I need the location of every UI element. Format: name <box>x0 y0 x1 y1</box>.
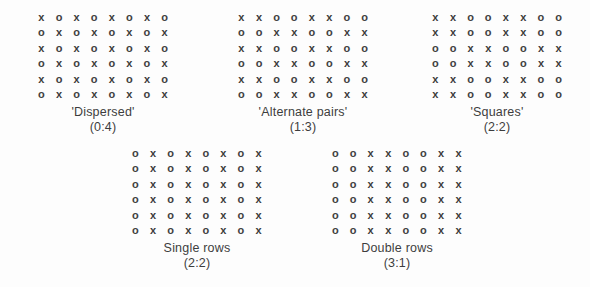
grid-cell-o: o <box>232 208 250 223</box>
grid-row: oxoxoxox <box>127 177 268 192</box>
grid-cell-x: x <box>215 146 233 161</box>
grid-row: oxoxoxox <box>127 192 268 207</box>
grid-cell-o: o <box>138 25 156 40</box>
grid-cell-o: o <box>415 161 433 176</box>
grid-cell-o: o <box>356 10 374 25</box>
grid-cell-o: o <box>232 192 250 207</box>
grid-cell-x: x <box>233 10 251 25</box>
grid-cell-o: o <box>532 25 550 40</box>
grid-cell-x: x <box>427 25 445 40</box>
grid-row: xoxoxoxo <box>33 72 174 87</box>
grid-cell-x: x <box>250 161 268 176</box>
grid-cell-o: o <box>68 87 86 102</box>
grid-cell-o: o <box>415 208 433 223</box>
grid-cell-x: x <box>479 56 497 71</box>
grid-cell-o: o <box>532 87 550 102</box>
grid-cell-x: x <box>121 25 139 40</box>
grid-cell-o: o <box>233 87 251 102</box>
grid-row: xxooxxoo <box>233 72 374 87</box>
grid-cell-x: x <box>432 177 450 192</box>
grid-cell-o: o <box>444 56 462 71</box>
grid-row: oxoxoxox <box>127 208 268 223</box>
pattern-ratio: (2:2) <box>112 256 282 271</box>
grid-cell-o: o <box>250 25 268 40</box>
grid-cell-o: o <box>33 25 51 40</box>
grid-cell-x: x <box>138 72 156 87</box>
grid-cell-x: x <box>68 72 86 87</box>
grid-cell-o: o <box>156 72 174 87</box>
grid-cell-x: x <box>515 72 533 87</box>
grid-cell-o: o <box>327 223 345 238</box>
grid-cell-x: x <box>215 208 233 223</box>
grid-cell-x: x <box>179 192 197 207</box>
pattern-name: Single rows <box>112 241 282 256</box>
grid-row: ooxxooxx <box>233 25 374 40</box>
grid-cell-o: o <box>338 72 356 87</box>
grid-cell-o: o <box>462 72 480 87</box>
grid-cell-x: x <box>144 146 162 161</box>
grid-cell-o: o <box>479 72 497 87</box>
grid-cell-x: x <box>179 146 197 161</box>
grid-cell-o: o <box>127 192 145 207</box>
grid-row: xxooxxoo <box>427 25 568 40</box>
grid-row: xxooxxoo <box>427 10 568 25</box>
pattern-ratio: (3:1) <box>312 256 482 271</box>
grid-cell-o: o <box>397 177 415 192</box>
grid-cell-x: x <box>432 161 450 176</box>
grid-cell-x: x <box>515 25 533 40</box>
grid-row: ooxxooxx <box>327 223 468 238</box>
grid-cell-o: o <box>462 87 480 102</box>
grid-cell-x: x <box>444 10 462 25</box>
grid-row: ooxxooxx <box>327 177 468 192</box>
symbol-grid: xxooxxooooxxooxxxxooxxooooxxooxxxxooxxoo… <box>233 10 374 102</box>
pattern-caption: 'Dispersed' (0:4) <box>18 105 188 135</box>
grid-cell-o: o <box>285 10 303 25</box>
grid-cell-x: x <box>432 208 450 223</box>
grid-row: xoxoxoxo <box>33 41 174 56</box>
grid-row: oxoxoxox <box>127 146 268 161</box>
grid-cell-o: o <box>162 223 180 238</box>
grid-cell-o: o <box>285 41 303 56</box>
grid-cell-x: x <box>444 72 462 87</box>
grid-cell-x: x <box>450 146 468 161</box>
grid-row: ooxxooxx <box>327 192 468 207</box>
grid-cell-x: x <box>179 223 197 238</box>
grid-cell-x: x <box>250 192 268 207</box>
grid-cell-o: o <box>415 223 433 238</box>
pattern-ratio: (1:3) <box>218 120 388 135</box>
grid-cell-x: x <box>515 10 533 25</box>
grid-cell-x: x <box>233 41 251 56</box>
grid-cell-x: x <box>450 223 468 238</box>
grid-cell-o: o <box>427 41 445 56</box>
grid-cell-o: o <box>127 146 145 161</box>
grid-cell-x: x <box>85 25 103 40</box>
grid-cell-x: x <box>121 87 139 102</box>
grid-cell-o: o <box>327 208 345 223</box>
grid-cell-x: x <box>450 208 468 223</box>
grid-cell-x: x <box>515 87 533 102</box>
grid-cell-x: x <box>233 72 251 87</box>
grid-cell-x: x <box>103 41 121 56</box>
grid-cell-o: o <box>162 208 180 223</box>
grid-cell-o: o <box>50 10 68 25</box>
grid-cell-o: o <box>532 72 550 87</box>
grid-cell-x: x <box>250 41 268 56</box>
grid-cell-x: x <box>462 41 480 56</box>
grid-cell-x: x <box>285 25 303 40</box>
grid-cell-x: x <box>85 87 103 102</box>
grid-cell-x: x <box>303 72 321 87</box>
grid-cell-o: o <box>321 87 339 102</box>
pattern-single-rows: oxoxoxoxoxoxoxoxoxoxoxoxoxoxoxoxoxoxoxox… <box>112 146 282 271</box>
pattern-caption: 'Alternate pairs' (1:3) <box>218 105 388 135</box>
grid-cell-o: o <box>327 146 345 161</box>
grid-cell-x: x <box>215 177 233 192</box>
grid-cell-o: o <box>197 192 215 207</box>
grid-cell-o: o <box>462 10 480 25</box>
grid-cell-o: o <box>268 10 286 25</box>
pattern-name: Double rows <box>312 241 482 256</box>
grid-cell-o: o <box>321 56 339 71</box>
grid-cell-x: x <box>303 10 321 25</box>
grid-cell-x: x <box>250 72 268 87</box>
grid-cell-x: x <box>68 41 86 56</box>
grid-cell-x: x <box>215 161 233 176</box>
